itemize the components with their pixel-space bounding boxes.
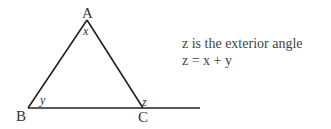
side-ac — [87, 20, 143, 108]
side-ab — [28, 20, 87, 108]
vertex-b-label: B — [16, 109, 26, 124]
caption-line-2: z = x + y — [182, 54, 232, 68]
triangle-diagram — [0, 0, 331, 129]
caption-line-1: z is the exterior angle — [182, 37, 303, 51]
vertex-a-label: A — [82, 6, 93, 21]
angle-x-label: x — [83, 25, 88, 37]
angle-y-label: y — [40, 94, 45, 106]
angle-z-label: z — [142, 96, 147, 108]
vertex-c-label: C — [138, 110, 148, 125]
